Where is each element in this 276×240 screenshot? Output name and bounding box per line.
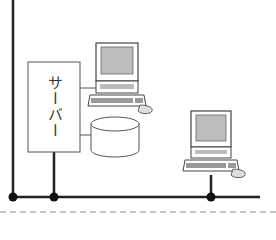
junction-dot-left [9, 193, 18, 202]
computer-icon [88, 43, 152, 114]
storage-cylinder-icon [91, 117, 139, 157]
junction-dot-server [50, 193, 59, 202]
junction-dot-pc2 [207, 193, 216, 202]
server-label: サーバー [27, 62, 80, 152]
computer-icon [183, 111, 245, 178]
